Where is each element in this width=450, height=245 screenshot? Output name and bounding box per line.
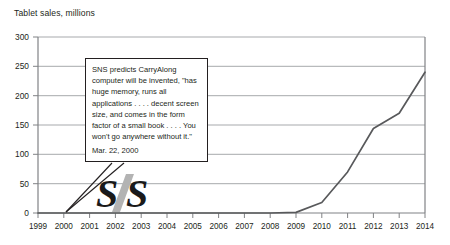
xtick-label-2008: 2008 — [261, 222, 280, 231]
sns-logo-s-left: S — [96, 172, 118, 214]
tablet-sales-chart: Tablet sales, millions 300 250 200 150 — [0, 0, 450, 245]
ytick-label-100: 100 — [15, 149, 29, 159]
ytick-label-150: 150 — [15, 120, 29, 130]
xtick-label-2007: 2007 — [235, 222, 254, 231]
plot-area: 300 250 200 150 100 50 0 — [0, 0, 450, 245]
xtick-label-2005: 2005 — [184, 222, 203, 231]
y-axis-ticks — [33, 37, 38, 213]
callout-body-text: SNS predicts CarryAlong computer will be… — [92, 64, 202, 142]
ytick-label-50: 50 — [20, 179, 30, 189]
prediction-callout: SNS predicts CarryAlong computer will be… — [85, 58, 208, 162]
callout-date-text: Mar. 22, 2000 — [92, 145, 138, 156]
xtick-label-2014: 2014 — [416, 222, 435, 231]
sns-logo: S S — [96, 172, 152, 214]
xtick-label-2001: 2001 — [80, 222, 99, 231]
ytick-label-250: 250 — [15, 61, 29, 71]
xtick-label-2011: 2011 — [339, 222, 357, 231]
sns-logo-s-right: S — [126, 172, 148, 214]
xtick-label-2000: 2000 — [55, 222, 74, 231]
xtick-label-2006: 2006 — [209, 222, 228, 231]
xtick-label-2009: 2009 — [287, 222, 306, 231]
ytick-label-0: 0 — [24, 208, 29, 218]
x-axis-labels: 1999 2000 2001 2002 2003 2004 2005 2006 … — [29, 222, 435, 231]
xtick-label-2012: 2012 — [364, 222, 383, 231]
ytick-label-200: 200 — [15, 91, 29, 101]
xtick-label-2003: 2003 — [132, 222, 151, 231]
xtick-label-2004: 2004 — [158, 222, 177, 231]
y-axis-labels: 300 250 200 150 100 50 0 — [15, 32, 29, 218]
xtick-label-2010: 2010 — [313, 222, 332, 231]
xtick-label-2002: 2002 — [106, 222, 125, 231]
ytick-label-300: 300 — [15, 32, 29, 42]
xtick-label-2013: 2013 — [390, 222, 409, 231]
xtick-label-1999: 1999 — [29, 222, 48, 231]
